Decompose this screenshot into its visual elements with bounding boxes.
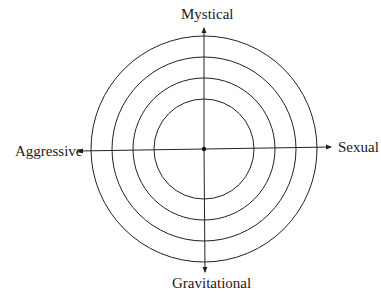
- center-dot: [202, 147, 206, 151]
- label-aggressive: Aggressive: [15, 144, 83, 159]
- axis-down-arrow: [204, 149, 205, 272]
- label-mystical: Mystical: [181, 7, 234, 22]
- axis-left-arrow: [78, 149, 204, 151]
- label-sexual: Sexual: [338, 140, 379, 155]
- label-gravitational: Gravitational: [172, 276, 251, 291]
- axis-right-arrow: [204, 147, 331, 149]
